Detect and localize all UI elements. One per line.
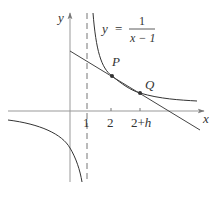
tick-label-2: 2: [107, 115, 114, 130]
y-axis-label: y: [56, 10, 64, 25]
x-axis-label: x: [202, 111, 209, 126]
function-label-denominator: x − 1: [129, 31, 155, 45]
function-label: y = 1 x − 1: [100, 14, 155, 45]
point-p: [110, 74, 114, 78]
function-label-lhs: y: [100, 21, 108, 36]
point-label-q: Q: [145, 77, 155, 92]
function-label-equals: =: [115, 21, 122, 36]
tick-label-1: 1: [83, 115, 90, 130]
hyperbola-lower-branch: [8, 120, 82, 182]
function-graph: y x 1 2 2+h P Q y = 1 x − 1: [0, 0, 224, 199]
point-label-p: P: [111, 54, 120, 69]
point-q: [138, 91, 142, 95]
tick-label-2-plus-h: 2+h: [131, 115, 151, 130]
function-label-numerator: 1: [139, 14, 145, 28]
